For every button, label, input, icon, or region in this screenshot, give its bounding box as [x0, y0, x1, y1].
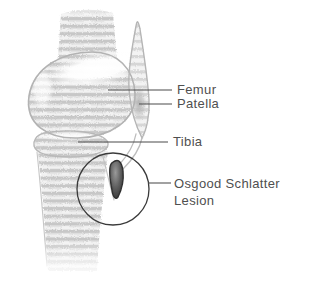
osgood-schlatter-lesion-label: Osgood Schlatter Lesion — [174, 176, 298, 209]
top-fade — [48, 8, 128, 17]
bottom-fade — [18, 240, 133, 290]
knee-diagram — [0, 0, 309, 290]
tibia-label: Tibia — [173, 135, 202, 149]
patella-label: Patella — [177, 97, 219, 111]
figure-canvas: Femur Patella Tibia Osgood Schlatter Les… — [0, 0, 309, 290]
condyle-highlight-left — [30, 66, 54, 110]
femur-label: Femur — [177, 83, 216, 97]
